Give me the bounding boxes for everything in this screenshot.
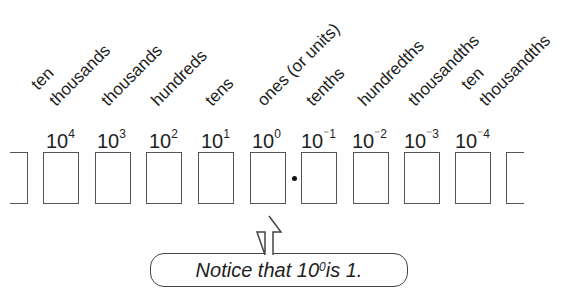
digit-box-ones: [250, 152, 286, 204]
digit-box-hundredths: [353, 152, 389, 204]
callout-note: Notice that 100 is 1.: [150, 253, 408, 287]
digit-box-ten-thousands: [43, 152, 79, 204]
callout-text: Notice that 10: [196, 259, 319, 282]
power-10-neg1: 10⁻1: [301, 126, 336, 151]
decimal-point: [292, 176, 297, 181]
power-10-2: 102: [149, 126, 178, 151]
partial-box-right: [506, 152, 524, 204]
partial-box-left: [10, 152, 28, 204]
label-tenths: tenths: [303, 64, 348, 109]
label-ten-thousandths-line2: thousandths: [476, 31, 554, 109]
label-tens: tens: [202, 74, 237, 109]
digit-box-thousandths: [404, 152, 440, 204]
power-10-4: 104: [46, 126, 75, 151]
callout-exponent: 0: [319, 260, 326, 274]
digit-box-thousands: [95, 152, 131, 204]
power-10-1: 101: [201, 126, 230, 151]
up-arrow-icon: [255, 215, 283, 255]
power-10-3: 103: [97, 126, 126, 151]
digit-box-tens: [198, 152, 234, 204]
digit-box-hundreds: [146, 152, 182, 204]
power-10-0: 100: [252, 126, 281, 151]
power-10-neg4: 10⁻4: [455, 126, 490, 151]
callout-text-end: is 1.: [326, 259, 363, 282]
digit-box-tenths: [301, 152, 337, 204]
power-10-neg2: 10⁻2: [352, 126, 387, 151]
power-10-neg3: 10⁻3: [404, 126, 439, 151]
digit-box-ten-thousandths: [455, 152, 491, 204]
